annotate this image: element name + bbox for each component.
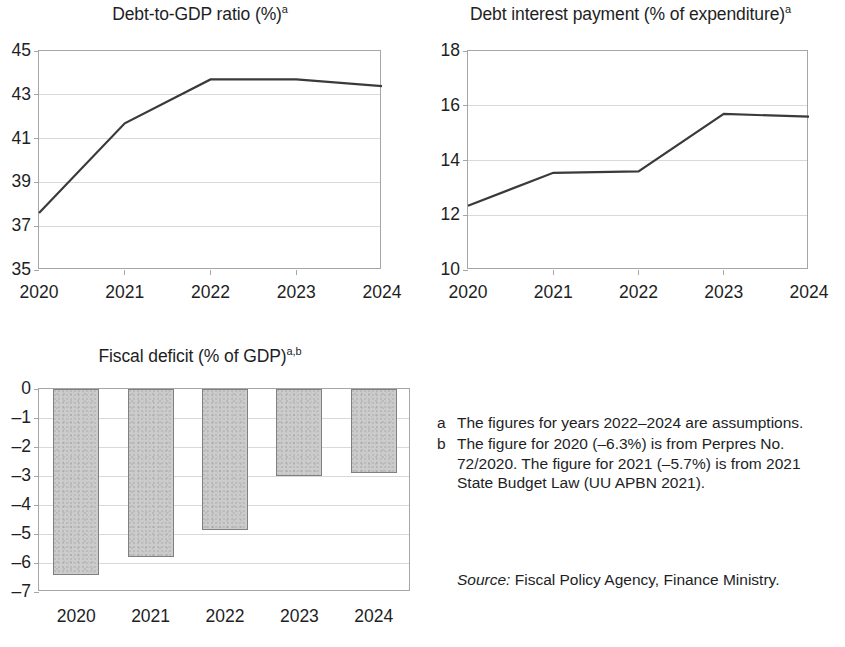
bar [202,389,248,530]
y-axis-tick-label: –6 [0,554,31,572]
x-axis-tick-label: 2022 [594,284,684,302]
x-axis-tick-label: 2024 [764,284,845,302]
figure-source: Source: Fiscal Policy Agency, Finance Mi… [457,570,779,590]
figure-container: Debt-to-GDP ratio (%)a 45434139373520202… [0,0,845,647]
x-axis-tickmark [638,270,639,275]
note-text-b: The figure for 2020 (–6.3%) is from Perp… [457,434,835,493]
y-axis-tick-label: 16 [414,97,460,115]
figure-notes: a The figures for years 2022–2024 are as… [437,413,835,494]
x-axis-tick-label: 2021 [80,284,170,302]
bar [128,389,174,557]
line-series [39,79,382,213]
x-axis-tickmark [124,270,125,275]
bar [276,389,322,476]
y-axis-tickmark [34,505,39,506]
y-axis-tick-label: –2 [0,438,31,456]
y-axis-tick-label: 14 [414,152,460,170]
line-series [468,114,809,206]
y-axis-tickmark [34,389,39,390]
y-axis-tick-label: –1 [0,409,31,427]
y-axis-tick-label: 0 [0,380,31,398]
series-layer [39,51,382,270]
note-marker-b: b [437,434,457,493]
bar [351,389,397,473]
x-axis-tick-label: 2023 [679,284,769,302]
x-axis-tick-label: 2024 [337,284,427,302]
source-value: Fiscal Policy Agency, Finance Ministry. [510,571,779,588]
y-axis-tick-label: 37 [0,217,31,235]
series-layer [468,51,809,270]
plot-area-debt-interest: 181614121020202021202220232024 [467,50,808,269]
y-axis-tick-label: –3 [0,467,31,485]
source-label: Source: [457,571,510,588]
y-axis-tick-label: 39 [0,173,31,191]
bar [53,389,99,575]
x-axis-tickmark [296,270,297,275]
x-axis-tick-label: 2024 [329,608,419,626]
y-axis-tick-label: 41 [0,130,31,148]
note-item: a The figures for years 2022–2024 are as… [437,413,835,433]
plot-area-debt-to-gdp: 45434139373520202021202220232024 [38,50,381,269]
y-axis-tickmark [34,592,39,593]
chart-panel-fiscal-deficit: Fiscal deficit (% of GDP)a,b 0–1–2–3–4–5… [0,338,430,647]
y-axis-tick-label: 43 [0,86,31,104]
plot-area-fiscal-deficit: 0–1–2–3–4–5–6–720202021202220232024 [38,388,410,591]
y-axis-tickmark [34,418,39,419]
x-axis-tick-label: 2022 [166,284,256,302]
note-marker-a: a [437,413,457,433]
chart-panel-debt-to-gdp: Debt-to-GDP ratio (%)a 45434139373520202… [0,0,423,300]
y-axis-tickmark [34,534,39,535]
plot-area-wrap-debt-to-gdp: 45434139373520202021202220232024 [0,0,423,300]
x-axis-tickmark [553,270,554,275]
y-axis-tickmark [34,447,39,448]
y-axis-tick-label: –7 [0,583,31,601]
y-axis-tick-label: –4 [0,496,31,514]
y-axis-tickmark [34,563,39,564]
plot-area-wrap-debt-interest: 181614121020202021202220232024 [423,0,845,300]
y-axis-tick-label: 35 [0,261,31,279]
plot-area-wrap-fiscal-deficit: 0–1–2–3–4–5–6–720202021202220232024 [0,338,430,647]
y-axis-tick-label: 18 [414,42,460,60]
x-axis-tick-label: 2023 [251,284,341,302]
x-axis-tickmark [723,270,724,275]
note-text-a: The figures for years 2022–2024 are assu… [457,413,835,433]
x-axis-tick-label: 2020 [423,284,513,302]
x-axis-tick-label: 2020 [0,284,84,302]
note-item: b The figure for 2020 (–6.3%) is from Pe… [437,434,835,493]
y-axis-tick-label: 10 [414,261,460,279]
x-axis-tick-label: 2021 [508,284,598,302]
y-axis-tick-label: 12 [414,206,460,224]
x-axis-tickmark [210,270,211,275]
y-axis-tick-label: 45 [0,42,31,60]
chart-panel-debt-interest: Debt interest payment (% of expenditure)… [423,0,845,300]
y-axis-tickmark [34,476,39,477]
y-axis-tick-label: –5 [0,525,31,543]
